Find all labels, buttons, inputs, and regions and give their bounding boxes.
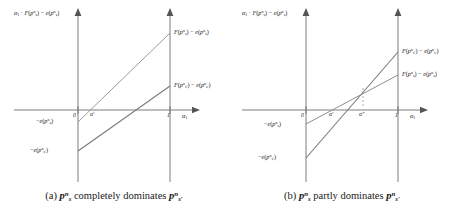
panel-b-tick-alpha-prime: α′ xyxy=(329,111,333,117)
panel-a-tick-alpha-prime: α′ xyxy=(90,111,94,117)
panel-b-lower-left-intercept-label: −e(pns′) xyxy=(258,154,276,161)
panel-a-caption-symbol-right: pns′ xyxy=(169,190,183,201)
figure-container: α1 · F(pns) − e(pns) α1 F(pns) − e(pns) … xyxy=(0,0,456,224)
panel-b-tick-one: 1 xyxy=(395,112,398,118)
panel-a: α1 · F(pns) − e(pns) α1 F(pns) − e(pns) … xyxy=(0,0,228,224)
alpha-one-arrow xyxy=(395,8,402,16)
panel-a-lower-right-label: F(pns′) − e(pns′) xyxy=(174,82,211,89)
panel-b-caption-symbol-left: pns xyxy=(299,190,311,201)
panel-a-tick-origin: 0 xyxy=(73,112,76,118)
line-dominated-s-prime xyxy=(78,86,170,151)
panel-b-svg xyxy=(228,0,456,190)
panel-b-caption-middle: partly dominates xyxy=(313,190,383,201)
y-axis-arrow xyxy=(75,8,82,16)
panel-b-y-axis-label: α1 · F(pns) − e(pns) xyxy=(242,10,287,17)
panel-b-plot xyxy=(228,0,456,190)
panel-b-upper-right-label: F(pns′) − e(pns′) xyxy=(402,48,439,55)
panel-b-tick-origin: 0 xyxy=(301,112,304,118)
panel-a-caption-middle: completely dominates xyxy=(74,190,166,201)
panel-b-caption-prefix: (b) xyxy=(284,190,296,201)
panel-a-caption-prefix: (a) xyxy=(45,190,57,201)
panel-a-caption: (a) pns completely dominates pns′ xyxy=(0,190,228,202)
panel-b: α1 · F(pns) − e(pns) α1 F(pns′) − e(pns′… xyxy=(228,0,456,224)
panel-a-tick-one: 1 xyxy=(167,112,170,118)
panel-b-tick-alpha-double-prime: α″ xyxy=(359,111,364,117)
line-s xyxy=(306,75,398,124)
panel-b-upper-left-intercept-label: −e(pns) xyxy=(264,121,281,128)
panel-a-upper-left-intercept-label: −e(pns) xyxy=(36,118,53,125)
panel-a-upper-right-label: F(pns) − e(pns) xyxy=(174,29,209,36)
panel-a-lower-left-intercept-label: −e(pns′) xyxy=(30,147,48,154)
x-axis-arrow xyxy=(420,107,428,113)
line-s-prime xyxy=(306,52,398,158)
panel-a-x-axis-label: α1 xyxy=(182,113,187,120)
panel-a-caption-symbol-left: pns xyxy=(60,190,72,201)
panel-b-caption-symbol-right: pns′ xyxy=(386,190,400,201)
panel-b-caption: (b) pns partly dominates pns′ xyxy=(228,190,456,202)
x-axis-arrow xyxy=(192,107,200,113)
panel-b-x-axis-label: α1 xyxy=(410,113,415,120)
alpha-one-arrow xyxy=(167,8,174,16)
panel-b-lower-right-label: F(pns) − e(pns) xyxy=(402,71,437,78)
line-dominant-s xyxy=(78,33,170,122)
panel-a-y-axis-label: α1 · F(pns) − e(pns) xyxy=(14,10,59,17)
y-axis-arrow xyxy=(303,8,310,16)
